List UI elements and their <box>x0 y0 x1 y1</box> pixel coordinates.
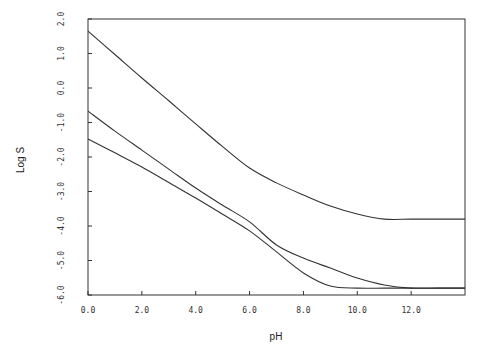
y-tick-label: -2.0 <box>57 147 66 166</box>
y-tick-label: -6.0 <box>57 285 66 304</box>
y-tick-label: -5.0 <box>57 251 66 270</box>
y-tick-label: -3.0 <box>57 182 66 201</box>
series-line <box>88 111 465 288</box>
x-axis-label: pH <box>270 331 283 342</box>
series-line <box>88 31 465 219</box>
x-tick-label: 2.0 <box>135 306 150 315</box>
x-tick-label: 8.0 <box>296 306 311 315</box>
x-tick-label: 6.0 <box>242 306 257 315</box>
y-axis-ticks: 2.01.00.0-1.0-2.0-3.0-4.0-5.0-6.0 <box>57 12 92 305</box>
solubility-chart: 0.02.04.06.08.010.012.0 2.01.00.0-1.0-2.… <box>0 0 487 354</box>
y-tick-label: 2.0 <box>57 12 66 27</box>
x-tick-label: 10.0 <box>348 306 367 315</box>
y-tick-label: -1.0 <box>57 113 66 132</box>
y-axis-label: Log S <box>15 147 26 173</box>
x-tick-label: 4.0 <box>188 306 203 315</box>
y-tick-label: 0.0 <box>57 81 66 96</box>
y-tick-label: -4.0 <box>57 216 66 235</box>
y-tick-label: 1.0 <box>57 46 66 61</box>
series-line <box>88 139 465 288</box>
x-tick-label: 0.0 <box>81 306 96 315</box>
x-tick-label: 12.0 <box>402 306 421 315</box>
plot-frame <box>88 19 465 295</box>
data-series <box>88 31 465 288</box>
